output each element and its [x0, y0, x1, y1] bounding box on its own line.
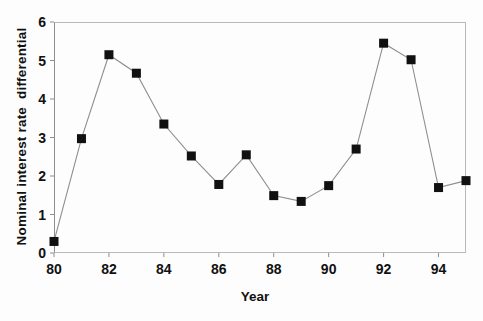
x-tick-label: 86: [199, 262, 239, 276]
y-tick-label: 3: [12, 131, 46, 145]
x-tick-label: 92: [364, 262, 404, 276]
x-tick-label: 90: [309, 262, 349, 276]
y-tick-label: 4: [12, 92, 46, 106]
y-tick-label: 1: [12, 208, 46, 222]
x-tick-label: 88: [254, 262, 294, 276]
y-tick-label: 6: [12, 15, 46, 29]
x-tick-label: 80: [34, 262, 74, 276]
x-tick-label: 94: [419, 262, 459, 276]
y-tick-label: 5: [12, 54, 46, 68]
x-tick-label: 82: [89, 262, 129, 276]
y-tick-label: 2: [12, 169, 46, 183]
plot-area: [54, 22, 466, 253]
chart-container: Nominal interest rate differential Year …: [0, 0, 483, 321]
x-tick-marks: [54, 253, 439, 257]
x-tick-label: 84: [144, 262, 184, 276]
x-axis-title: Year: [40, 289, 470, 304]
y-tick-label: 0: [12, 246, 46, 260]
